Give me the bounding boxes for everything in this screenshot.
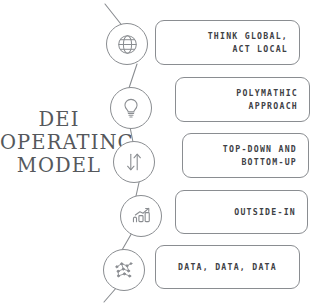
step-node-2[interactable] [110, 87, 152, 129]
step-card-3-line-2: BOTTOM-UP [241, 156, 297, 169]
page-title: DEI OPERATING MODEL [0, 108, 118, 177]
data-points-icon [113, 259, 135, 281]
step-node-5[interactable] [103, 249, 145, 291]
step-card-5-line-1: DATA, DATA, DATA [178, 261, 277, 274]
globe-icon [116, 33, 139, 56]
step-node-3[interactable] [113, 141, 155, 183]
step-node-4[interactable] [120, 195, 162, 237]
step-card-2[interactable]: POLYMATHIC APPROACH [175, 77, 310, 122]
up-down-arrows-icon [123, 151, 145, 173]
step-card-4[interactable]: OUTSIDE-IN [175, 190, 308, 234]
step-card-2-line-2: APPROACH [249, 100, 298, 113]
dei-operating-model-diagram: DEI OPERATING MODEL [0, 0, 325, 304]
step-card-1[interactable]: THINK GLOBAL, ACT LOCAL [155, 20, 300, 65]
bar-chart-growth-icon [130, 205, 153, 228]
step-card-1-line-1: THINK GLOBAL, [208, 30, 288, 43]
step-node-1[interactable] [106, 23, 148, 65]
step-card-4-line-1: OUTSIDE-IN [234, 206, 296, 219]
step-card-5[interactable]: DATA, DATA, DATA [155, 245, 300, 289]
step-card-3-line-1: TOP-DOWN AND [223, 143, 297, 156]
step-card-2-line-1: POLYMATHIC [236, 87, 298, 100]
step-card-3[interactable]: TOP-DOWN AND BOTTOM-UP [182, 133, 309, 178]
lightbulb-icon [120, 97, 142, 119]
step-card-1-line-2: ACT LOCAL [232, 43, 288, 56]
